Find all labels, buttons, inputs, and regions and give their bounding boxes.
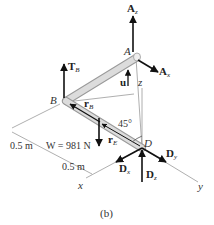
dimension-label-2: 0.5 m [62, 161, 85, 172]
dx-label: Dx [119, 162, 131, 176]
point-d-label: D [143, 137, 152, 149]
point-b-label: B [50, 94, 57, 106]
dimension-extension-1 [12, 104, 60, 128]
weight-label: W = 981 N [46, 140, 91, 151]
dimension-label-1: 0.5 m [10, 140, 33, 151]
dy-label: Dy [166, 147, 178, 161]
az-label: Az [127, 2, 138, 16]
ax-label: Ax [159, 65, 171, 79]
force-arrows [64, 16, 166, 182]
angle-label: 45° [118, 118, 132, 129]
x-axis-label: x [77, 179, 83, 191]
point-a-label: A [123, 45, 131, 57]
dy-force-arrow [142, 148, 166, 162]
ax-force-arrow [138, 60, 158, 72]
construction-line-a-d [136, 58, 142, 148]
z-axis-label: z [137, 76, 143, 88]
rigid-body-free-body-diagram: Az A Ax TB u z B rB 45° rE D W = 981 N 0… [0, 0, 214, 225]
dx-force-arrow [116, 148, 142, 162]
dz-label: Dz [146, 168, 157, 182]
tb-label: TB [68, 60, 80, 74]
y-axis-label: y [197, 180, 203, 192]
figure-caption: (b) [100, 207, 113, 220]
u-label: u [120, 76, 126, 88]
